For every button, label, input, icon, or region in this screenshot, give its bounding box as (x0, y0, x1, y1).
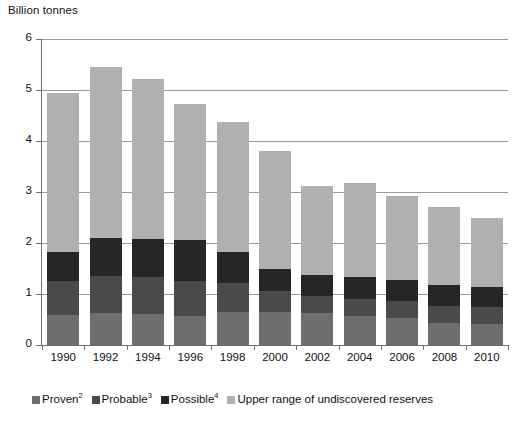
x-tick-mark (127, 345, 128, 350)
bar-segment (344, 183, 376, 277)
bar-2000[interactable] (259, 151, 291, 345)
legend-footnote-marker: 3 (148, 391, 152, 400)
x-tick-label-1990: 1990 (40, 351, 86, 363)
legend-item[interactable]: Probable3 (92, 392, 152, 407)
legend-label: Upper range of undiscovered reserves (237, 392, 433, 407)
x-tick-mark (84, 345, 85, 350)
bar-1992[interactable] (90, 67, 122, 345)
legend-label: Possible4 (171, 392, 219, 407)
bar-segment (428, 323, 460, 345)
legend-swatch-icon (161, 396, 169, 404)
bar-segment (90, 238, 122, 276)
bar-segment (47, 315, 79, 345)
bar-segment (174, 281, 206, 317)
y-axis-title: Billion tonnes (8, 4, 78, 16)
bar-segment (344, 277, 376, 298)
bar-segment (132, 79, 164, 239)
bar-segment (259, 291, 291, 312)
bar-segment (132, 314, 164, 345)
x-tick-label-2006: 2006 (379, 351, 425, 363)
x-tick-label-1996: 1996 (167, 351, 213, 363)
bar-segment (90, 276, 122, 313)
bar-segment (386, 301, 418, 318)
bar-segment (47, 281, 79, 315)
chart-legend: Proven2Probable3Possible4Upper range of … (32, 392, 442, 407)
x-tick-mark (42, 345, 43, 350)
bar-2010[interactable] (471, 218, 503, 345)
bar-segment (344, 299, 376, 317)
bar-segment (174, 104, 206, 241)
bar-segment (471, 307, 503, 323)
y-tick-label: 6 (10, 31, 32, 43)
bar-segment (217, 122, 249, 252)
legend-swatch-icon (92, 396, 100, 404)
legend-swatch-icon (32, 396, 40, 404)
bar-segment (386, 318, 418, 345)
bar-2002[interactable] (301, 186, 333, 345)
x-tick-label-1994: 1994 (125, 351, 171, 363)
y-tick-label: 1 (10, 286, 32, 298)
x-tick-mark (381, 345, 382, 350)
bar-2004[interactable] (344, 183, 376, 345)
x-tick-label-2008: 2008 (421, 351, 467, 363)
plot-area (42, 39, 508, 345)
bar-segment (301, 275, 333, 295)
bar-segment (301, 296, 333, 314)
bar-2008[interactable] (428, 207, 460, 345)
bar-segment (259, 151, 291, 268)
y-tick-label: 3 (10, 184, 32, 196)
x-tick-label-1992: 1992 (83, 351, 129, 363)
footer-cutoff-text (40, 420, 340, 429)
legend-swatch-icon (227, 396, 235, 404)
bar-segment (174, 240, 206, 280)
bar-segment (471, 218, 503, 288)
y-tick-label: 2 (10, 235, 32, 247)
bar-segment (344, 316, 376, 345)
legend-footnote-marker: 4 (214, 391, 218, 400)
legend-item[interactable]: Possible4 (161, 392, 219, 407)
legend-label: Probable3 (102, 392, 152, 407)
legend-label: Proven2 (42, 392, 83, 407)
x-tick-mark (466, 345, 467, 350)
x-tick-label-2010: 2010 (464, 351, 510, 363)
legend-item[interactable]: Proven2 (32, 392, 83, 407)
bar-segment (217, 283, 249, 312)
bar-segment (174, 316, 206, 345)
x-tick-mark (508, 345, 509, 350)
bar-segment (132, 277, 164, 315)
x-tick-label-2000: 2000 (252, 351, 298, 363)
bar-segment (132, 239, 164, 277)
bar-1996[interactable] (174, 104, 206, 345)
x-tick-label-1998: 1998 (210, 351, 256, 363)
bar-segment (301, 186, 333, 275)
y-tick-label: 0 (10, 337, 32, 349)
x-tick-mark (169, 345, 170, 350)
bar-segment (301, 313, 333, 345)
bar-segment (259, 269, 291, 292)
bar-2006[interactable] (386, 196, 418, 345)
bar-segment (428, 285, 460, 306)
x-tick-mark (254, 345, 255, 350)
chart-container: Billion tonnes 0123456 19901992199419961… (0, 0, 518, 429)
y-tick-label: 5 (10, 82, 32, 94)
bar-segment (471, 287, 503, 307)
x-tick-mark (339, 345, 340, 350)
x-tick-mark (296, 345, 297, 350)
y-tick-label: 4 (10, 133, 32, 145)
bar-segment (90, 67, 122, 239)
bar-1998[interactable] (217, 122, 249, 345)
legend-item[interactable]: Upper range of undiscovered reserves (227, 392, 433, 407)
bar-segment (217, 312, 249, 345)
bar-segment (47, 93, 79, 252)
bar-segment (471, 324, 503, 345)
bar-1990[interactable] (47, 93, 79, 345)
bar-1994[interactable] (132, 79, 164, 345)
bar-segment (428, 207, 460, 285)
x-axis-line (41, 345, 508, 346)
x-tick-label-2002: 2002 (294, 351, 340, 363)
bar-segment (386, 280, 418, 301)
bar-segment (217, 252, 249, 283)
x-tick-label-2004: 2004 (337, 351, 383, 363)
bar-segment (90, 313, 122, 345)
bar-segment (386, 196, 418, 280)
